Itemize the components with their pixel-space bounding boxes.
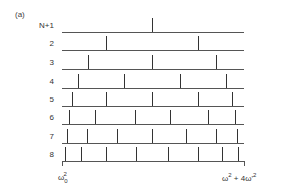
level-tick — [198, 36, 199, 50]
right-bracket-tick — [244, 161, 245, 166]
level-tick — [106, 36, 107, 50]
level-tick — [87, 129, 88, 143]
level-tick — [238, 147, 239, 161]
level-tick — [168, 147, 169, 161]
axis-right-sup2: 2 — [253, 172, 256, 178]
level-tick — [135, 110, 136, 124]
row-label: 3 — [30, 58, 54, 67]
level-tick — [81, 147, 82, 161]
level-tick — [152, 55, 153, 69]
axis-right-label: ω2 + 4ω'2 — [222, 172, 256, 183]
level-line — [62, 88, 244, 89]
level-tick — [117, 129, 118, 143]
level-tick — [67, 129, 68, 143]
level-tick — [180, 74, 181, 88]
level-tick — [216, 55, 217, 69]
row-label: 5 — [30, 95, 54, 104]
level-tick — [152, 129, 153, 143]
level-tick — [208, 110, 209, 124]
axis-left-sup: 2 — [64, 171, 67, 177]
level-tick — [95, 110, 96, 124]
level-tick — [106, 147, 107, 161]
level-tick — [65, 147, 66, 161]
level-tick — [198, 147, 199, 161]
level-tick — [237, 129, 238, 143]
level-tick — [170, 110, 171, 124]
level-tick — [72, 92, 73, 106]
level-line — [62, 69, 244, 70]
level-tick — [235, 110, 236, 124]
level-tick — [222, 147, 223, 161]
axis-left-sub: 0 — [64, 178, 67, 184]
panel-label: (a) — [15, 10, 25, 19]
row-label: 7 — [30, 132, 54, 141]
level-line — [62, 106, 244, 107]
level-line — [62, 124, 244, 125]
level-line — [62, 161, 244, 162]
level-tick — [216, 129, 217, 143]
axis-right-mid: + 4ω' — [232, 174, 253, 183]
level-tick — [124, 74, 125, 88]
axis-left-label: ω02 — [58, 171, 71, 183]
level-tick — [69, 110, 70, 124]
row-label: 2 — [30, 39, 54, 48]
level-tick — [198, 92, 199, 106]
row-label: 6 — [30, 113, 54, 122]
level-tick — [136, 147, 137, 161]
row-label: 4 — [30, 77, 54, 86]
level-line — [62, 143, 244, 144]
row-label: N+1 — [30, 21, 54, 30]
left-bracket-tick — [62, 161, 63, 166]
level-tick — [226, 74, 227, 88]
row-label: 8 — [30, 150, 54, 159]
level-tick — [106, 92, 107, 106]
level-tick — [152, 18, 153, 32]
level-tick — [88, 55, 89, 69]
level-tick — [186, 129, 187, 143]
level-tick — [78, 74, 79, 88]
level-tick — [232, 92, 233, 106]
level-tick — [152, 92, 153, 106]
level-line — [62, 32, 244, 33]
level-line — [62, 50, 244, 51]
